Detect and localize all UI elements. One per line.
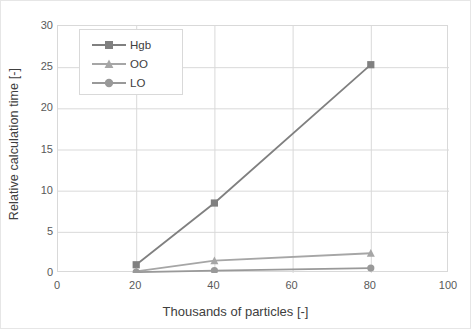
y-axis-title-text: Relative calculation time [-] bbox=[7, 67, 21, 219]
x-tick-label: 20 bbox=[115, 279, 155, 291]
data-point-lo-40 bbox=[211, 267, 218, 273]
y-tick-label: 15 bbox=[23, 143, 53, 155]
data-point-hgb-80 bbox=[367, 61, 374, 68]
chart-legend: HgbOOLO bbox=[79, 29, 183, 95]
x-tick-label: 0 bbox=[37, 279, 77, 291]
legend-item-label: OO bbox=[130, 58, 148, 70]
y-tick-label: 25 bbox=[23, 60, 53, 72]
circle-marker-icon bbox=[91, 76, 127, 90]
x-axis-title: Thousands of particles [-] bbox=[1, 304, 470, 319]
square-marker-icon bbox=[91, 38, 127, 52]
legend-item-label: LO bbox=[130, 77, 145, 89]
y-tick-label: 10 bbox=[23, 184, 53, 196]
y-tick-label: 20 bbox=[23, 101, 53, 113]
data-point-lo-80 bbox=[367, 264, 374, 271]
series-lines bbox=[136, 65, 371, 272]
data-point-hgb-40 bbox=[211, 199, 218, 206]
x-tick-label: 60 bbox=[272, 279, 312, 291]
x-axis-title-text: Thousands of particles [-] bbox=[163, 304, 309, 319]
data-point-lo-20 bbox=[133, 269, 140, 273]
chart-figure: Relative calculation time [-] 3025201510… bbox=[0, 0, 471, 329]
y-tick-label: 30 bbox=[23, 19, 53, 31]
x-tick-label: 100 bbox=[428, 279, 468, 291]
x-tick-label: 40 bbox=[193, 279, 233, 291]
legend-item-hgb[interactable]: Hgb bbox=[80, 35, 182, 54]
x-axis-tick-labels: 020406080100 bbox=[1, 279, 471, 295]
y-tick-label: 5 bbox=[23, 225, 53, 237]
y-tick-label: 0 bbox=[23, 266, 53, 278]
legend-item-lo[interactable]: LO bbox=[80, 73, 182, 92]
x-tick-label: 80 bbox=[350, 279, 390, 291]
legend-item-label: Hgb bbox=[130, 39, 151, 51]
triangle-marker-icon bbox=[91, 57, 127, 71]
legend-item-oo[interactable]: OO bbox=[80, 54, 182, 73]
series-line-lo bbox=[136, 268, 371, 272]
